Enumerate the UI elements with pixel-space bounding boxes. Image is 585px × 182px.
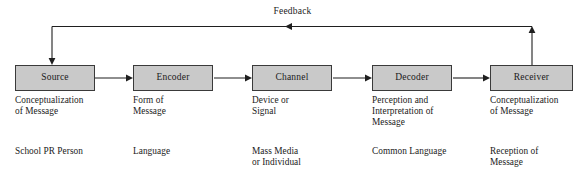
stage-description-encoder: Form of Message <box>133 95 251 117</box>
stage-box-decoder[interactable]: Decoder <box>372 65 452 91</box>
stage-example-receiver: Reception of Message <box>490 146 585 168</box>
stage-description-decoder: Perception and Interpretation of Message <box>372 95 490 129</box>
stage-box-encoder[interactable]: Encoder <box>133 65 213 91</box>
arrow-source-to-encoder <box>95 75 133 82</box>
stage-box-label-decoder: Decoder <box>395 73 429 83</box>
stage-box-label-receiver: Receiver <box>514 73 549 83</box>
stage-box-channel[interactable]: Channel <box>252 65 332 91</box>
stage-box-receiver[interactable]: Receiver <box>490 65 573 91</box>
stage-box-label-channel: Channel <box>275 73 308 83</box>
stage-example-source: School PR Person <box>15 146 133 157</box>
stage-description-channel: Device or Signal <box>252 95 370 117</box>
arrow-channel-to-decoder <box>333 75 372 82</box>
stage-example-encoder: Language <box>133 146 251 157</box>
stage-box-label-source: Source <box>41 73 69 83</box>
arrow-encoder-to-channel <box>214 75 252 82</box>
stage-box-source[interactable]: Source <box>15 65 95 91</box>
feedback-label: Feedback <box>0 7 585 17</box>
arrow-decoder-to-receiver <box>453 75 490 82</box>
feedback-loop-arrow <box>49 23 536 65</box>
stage-box-label-encoder: Encoder <box>156 73 189 83</box>
communication-process-diagram: Feedback Source Conceptualization of Mes… <box>0 0 585 182</box>
stage-description-receiver: Conceptualization of Message <box>490 95 585 117</box>
stage-example-channel: Mass Media or Individual <box>252 146 370 168</box>
stage-example-decoder: Common Language <box>372 146 490 157</box>
stage-description-source: Conceptualization of Message <box>15 95 133 117</box>
